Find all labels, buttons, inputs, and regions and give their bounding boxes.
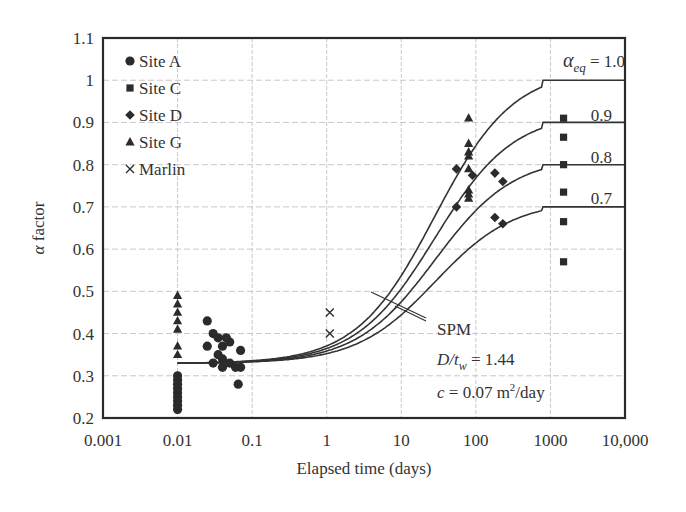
y-tick-label: 0.8 bbox=[73, 156, 94, 175]
circle-marker bbox=[214, 333, 223, 342]
series-site-c bbox=[560, 115, 567, 266]
circle-marker bbox=[203, 342, 212, 351]
triangle-marker bbox=[173, 341, 182, 349]
circle-marker bbox=[173, 371, 182, 380]
legend-label: Site G bbox=[139, 133, 182, 152]
triangle-marker bbox=[125, 137, 134, 145]
y-tick-label: 0.2 bbox=[73, 409, 94, 428]
x-tick-label: 10,000 bbox=[602, 431, 649, 450]
series-site-a bbox=[173, 316, 245, 414]
spm-label: SPM bbox=[437, 320, 471, 339]
c-annotation: c = 0.07 m2/day bbox=[437, 381, 545, 402]
circle-marker bbox=[209, 359, 218, 368]
triangle-marker bbox=[173, 350, 182, 358]
legend-label: Site A bbox=[139, 52, 182, 71]
y-tick-label: 0.7 bbox=[73, 198, 95, 217]
x-axis-ticks: 0.0010.010.1110100100010,000 bbox=[84, 431, 649, 450]
triangle-marker bbox=[173, 316, 182, 324]
square-marker bbox=[560, 134, 567, 141]
x-tick-label: 0.01 bbox=[163, 431, 193, 450]
grid-lines bbox=[103, 38, 625, 418]
series-site-g bbox=[173, 113, 473, 358]
diamond-marker bbox=[125, 110, 135, 120]
triangle-marker bbox=[173, 324, 182, 332]
alpha-eq-07-label: 0.7 bbox=[591, 189, 613, 208]
triangle-marker bbox=[464, 113, 473, 121]
eq-subscript: eq bbox=[573, 60, 586, 75]
square-marker bbox=[560, 218, 567, 225]
y-axis-label-text: factor bbox=[29, 201, 48, 245]
y-tick-label: 0.5 bbox=[73, 282, 94, 301]
circle-marker bbox=[236, 363, 245, 372]
legend-label: Marlin bbox=[139, 160, 186, 179]
square-marker bbox=[560, 161, 567, 168]
x-tick-label: 100 bbox=[463, 431, 489, 450]
plot-frame bbox=[103, 38, 625, 418]
x-tick-label: 1000 bbox=[533, 431, 567, 450]
square-marker bbox=[560, 115, 567, 122]
square-marker bbox=[126, 84, 133, 91]
x-tick-label: 0.001 bbox=[84, 431, 122, 450]
y-tick-label: 0.3 bbox=[73, 367, 94, 386]
dtw-text: D/t bbox=[436, 350, 460, 369]
legend-label: Site D bbox=[139, 106, 182, 125]
y-tick-label: 1 bbox=[86, 71, 95, 90]
c-unit: /day bbox=[515, 383, 545, 402]
legend-item: Site A bbox=[125, 52, 181, 71]
circle-marker bbox=[125, 56, 134, 65]
y-tick-label: 0.9 bbox=[73, 113, 94, 132]
diamond-marker bbox=[490, 168, 500, 178]
y-tick-label: 0.6 bbox=[73, 240, 94, 259]
alpha-eq-09-label: 0.9 bbox=[591, 106, 612, 125]
legend-item: Marlin bbox=[126, 160, 186, 179]
circle-marker bbox=[236, 346, 245, 355]
triangle-marker bbox=[173, 307, 182, 315]
x-axis-label: Elapsed time (days) bbox=[296, 459, 431, 478]
alpha-factor-chart: 0.0010.010.1110100100010,000 0.20.30.40.… bbox=[0, 0, 686, 512]
y-axis-ticks: 0.20.30.40.50.60.70.80.911.1 bbox=[73, 29, 95, 428]
data-points bbox=[173, 113, 567, 414]
y-tick-label: 1.1 bbox=[73, 29, 94, 48]
square-marker bbox=[560, 258, 567, 265]
c-value: = 0.07 m bbox=[445, 383, 510, 402]
alpha-eq-08-label: 0.8 bbox=[591, 148, 612, 167]
circle-marker bbox=[225, 337, 234, 346]
diamond-marker bbox=[490, 213, 500, 223]
legend: Site ASite CSite DSite GMarlin bbox=[125, 52, 186, 179]
y-tick-label: 0.4 bbox=[73, 325, 95, 344]
x-tick-label: 10 bbox=[393, 431, 410, 450]
circle-marker bbox=[203, 316, 212, 325]
triangle-marker bbox=[464, 193, 473, 201]
dtw-value: = 1.44 bbox=[467, 350, 515, 369]
triangle-marker bbox=[464, 139, 473, 147]
x-marker bbox=[326, 308, 334, 316]
y-axis-label: α factor bbox=[29, 201, 48, 254]
legend-label: Site C bbox=[139, 79, 181, 98]
square-marker bbox=[560, 189, 567, 196]
triangle-marker bbox=[173, 299, 182, 307]
legend-item: Site C bbox=[126, 79, 181, 98]
circle-marker bbox=[234, 380, 243, 389]
alpha-eq-value: = 1.0 bbox=[586, 52, 625, 71]
x-marker bbox=[126, 165, 134, 173]
dtw-subscript: w bbox=[459, 359, 467, 373]
legend-item: Site G bbox=[125, 133, 182, 152]
x-tick-label: 1 bbox=[322, 431, 331, 450]
alpha-eq-1-label: αeq = 1.0 bbox=[563, 49, 625, 75]
x-tick-label: 0.1 bbox=[242, 431, 263, 450]
alpha-symbol: α bbox=[563, 49, 574, 71]
